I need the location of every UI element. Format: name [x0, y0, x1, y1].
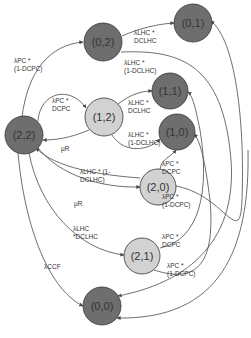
- edge-far-to-00: [117, 150, 248, 318]
- edge-label-02-01: λLHC * DCLHC: [134, 29, 156, 44]
- edge-label-22-20: λLHC * (1- DCLHC): [80, 168, 110, 183]
- svg-text:(1,1): (1,1): [159, 85, 182, 97]
- edge-label-12-22: μR: [61, 145, 69, 153]
- edge-label-22-12: λPC * DCPC: [52, 97, 70, 112]
- node-2-2: (2,2): [5, 116, 43, 154]
- node-1-1: (1,1): [152, 73, 188, 109]
- svg-text:(2,2): (2,2): [13, 129, 36, 141]
- edge-label-22-02: λPC * (1-DCPC): [14, 57, 43, 72]
- svg-text:(2,1): (2,1): [131, 250, 154, 262]
- svg-text:(0,0): (0,0): [91, 300, 114, 312]
- node-1-2: (1,2): [85, 98, 123, 136]
- edge-label-20-10: λPC * DCPC: [162, 160, 180, 175]
- edge-label-21-far: λPC * (1-DCPC): [167, 262, 196, 277]
- edge-label-12-10: λLHC * (1-DCLHC): [128, 131, 161, 146]
- edge-12-to-22: [43, 130, 89, 140]
- node-2-1: (2,1): [124, 238, 160, 274]
- svg-text:(1,2): (1,2): [93, 111, 116, 123]
- edge-label-22-21: λLHC *DCLHC: [73, 225, 98, 240]
- node-0-1: (0,1): [174, 4, 212, 42]
- edge-label-20-far: λPC * (1-DCPC): [162, 193, 191, 208]
- node-0-0: (0,0): [83, 287, 121, 325]
- svg-text:(0,2): (0,2): [92, 36, 115, 48]
- edge-label-20-22: μR: [74, 200, 82, 208]
- edge-label-22-00: λCCF: [44, 263, 61, 271]
- edge-label-12-11: λLHC * DCLHC: [128, 99, 150, 114]
- edge-label-21-11: λPC * DCPC: [162, 233, 180, 248]
- svg-text:(2,0): (2,0): [147, 181, 170, 193]
- node-0-2: (0,2): [84, 23, 122, 61]
- node-1-0: (1,0): [159, 114, 195, 150]
- svg-text:(1,0): (1,0): [166, 126, 189, 138]
- svg-text:(0,1): (0,1): [182, 17, 205, 29]
- state-diagram: (2,2) (0,2) (0,1) (1,2) (1,1) (1,0) (2,0…: [0, 0, 251, 338]
- edge-label-02-far: λLHC * (1-DCLHC): [124, 59, 157, 74]
